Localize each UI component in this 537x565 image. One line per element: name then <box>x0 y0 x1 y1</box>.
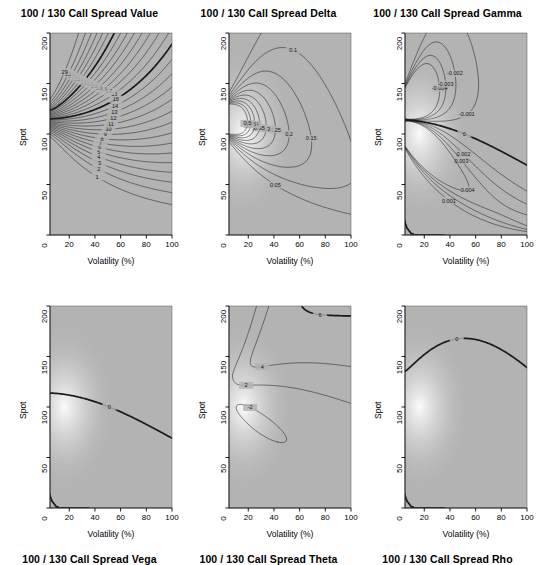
y-tick-label: 150 <box>40 83 49 105</box>
x-tick-label: 40 <box>84 513 106 522</box>
contour-label: -0.002 <box>447 70 463 76</box>
contour-label: 0 <box>455 336 458 342</box>
y-tick-label: 150 <box>219 356 228 378</box>
contour-label: 6 <box>319 312 322 318</box>
x-tick-label: 40 <box>263 240 285 249</box>
x-tick-label: 80 <box>135 240 157 249</box>
x-tick-label: 80 <box>314 240 336 249</box>
x-tick-label: 60 <box>289 240 311 249</box>
x-axis-label: Volatility (%) <box>229 529 351 539</box>
y-tick-label: 100 <box>395 134 404 156</box>
contour-label: 0.2 <box>285 131 293 137</box>
contour-label: 0.002 <box>457 151 471 157</box>
y-axis-label: Spot <box>197 129 207 147</box>
x-tick-label: 60 <box>110 513 132 522</box>
contour-label: 14 <box>112 103 118 109</box>
y-tick-label: 100 <box>40 407 49 429</box>
contour-label: 4 <box>261 364 264 370</box>
x-tick-label: 40 <box>439 513 461 522</box>
y-tick-label: 0 <box>40 508 49 530</box>
x-tick-label: 20 <box>58 513 80 522</box>
y-tick-label: 0 <box>395 508 404 530</box>
y-tick-label: 100 <box>40 134 49 156</box>
contour-label: 0.004 <box>461 187 475 193</box>
x-axis-label: Volatility (%) <box>229 256 351 266</box>
contour-plot-rho: 0 <box>358 273 537 546</box>
x-tick-label: 40 <box>439 240 461 249</box>
x-tick-label: 80 <box>490 240 512 249</box>
y-tick-label: 100 <box>219 134 228 156</box>
y-tick-label: 150 <box>395 356 404 378</box>
y-tick-label: 150 <box>395 83 404 105</box>
contour-label: 12 <box>110 115 116 121</box>
panel-gamma: 100 / 130 Call Spread Gamma-0.004-0.003-… <box>358 0 537 273</box>
y-tick-label: 200 <box>40 33 49 55</box>
x-tick-label: 20 <box>413 513 435 522</box>
y-tick-label: 50 <box>40 184 49 206</box>
x-tick-label: 60 <box>465 240 487 249</box>
panel-title-theta: 100 / 130 Call Spread Theta <box>179 553 358 565</box>
y-tick-label: 50 <box>219 184 228 206</box>
x-axis-label: Volatility (%) <box>50 529 172 539</box>
contour-label: 1 <box>96 174 99 180</box>
y-tick-label: 0 <box>40 235 49 257</box>
y-tick-label: 0 <box>219 508 228 530</box>
contour-label: -0.001 <box>459 111 475 117</box>
y-tick-label: 50 <box>40 457 49 479</box>
y-tick-label: 200 <box>219 306 228 328</box>
x-tick-label: 60 <box>465 513 487 522</box>
y-tick-label: 200 <box>395 33 404 55</box>
x-tick-label: 20 <box>413 240 435 249</box>
contour-label: 2 <box>245 382 248 388</box>
contour-label: 3 <box>98 160 101 166</box>
contour-label: -2 <box>248 404 253 410</box>
panel-value: 100 / 130 Call Spread Value1234567891011… <box>0 0 179 273</box>
y-tick-label: 0 <box>219 235 228 257</box>
panel-delta: 100 / 130 Call Spread Delta0.050.10.150.… <box>179 0 358 273</box>
y-tick-label: 150 <box>219 83 228 105</box>
x-axis-label: Volatility (%) <box>50 256 172 266</box>
y-tick-label: 150 <box>40 356 49 378</box>
x-tick-label: 80 <box>490 513 512 522</box>
contour-label: 0.05 <box>270 182 281 188</box>
panel-vega: 100 / 130 Call Spread Vega00501001502002… <box>0 273 179 546</box>
y-axis-label: Spot <box>373 129 383 147</box>
x-tick-label: 60 <box>110 240 132 249</box>
y-axis-label: Spot <box>373 402 383 420</box>
x-tick-label: 20 <box>237 513 259 522</box>
contour-plot-gamma: -0.004-0.003-0.002-0.00100.0010.0020.003… <box>358 0 537 273</box>
contour-label: 29 <box>62 69 68 75</box>
y-tick-label: 50 <box>395 457 404 479</box>
x-tick-label: 100 <box>516 513 537 522</box>
y-tick-label: 50 <box>395 184 404 206</box>
panel-title-vega: 100 / 130 Call Spread Vega <box>0 553 179 565</box>
contour-label: 2 <box>97 166 100 172</box>
x-tick-label: 100 <box>516 240 537 249</box>
y-axis-label: Spot <box>18 129 28 147</box>
x-tick-label: 40 <box>263 513 285 522</box>
contour-label: 0 <box>108 404 111 410</box>
y-tick-label: 200 <box>219 33 228 55</box>
y-tick-label: 50 <box>219 457 228 479</box>
contour-label: 13 <box>111 109 117 115</box>
y-axis-label: Spot <box>197 402 207 420</box>
contour-label: 0.5 <box>244 120 252 126</box>
x-tick-label: 20 <box>237 240 259 249</box>
contour-label: -0.003 <box>438 81 454 87</box>
y-tick-label: 0 <box>395 235 404 257</box>
x-tick-label: 80 <box>314 513 336 522</box>
x-tick-label: 20 <box>58 240 80 249</box>
contour-label: 0.1 <box>289 47 297 53</box>
contour-label: 0 <box>463 131 466 137</box>
x-tick-label: 40 <box>84 240 106 249</box>
y-tick-label: 200 <box>395 306 404 328</box>
x-axis-label: Volatility (%) <box>405 529 527 539</box>
panel-theta: 100 / 130 Call Spread Theta-224605010015… <box>179 273 358 546</box>
x-axis-label: Volatility (%) <box>405 256 527 266</box>
x-tick-label: 80 <box>135 513 157 522</box>
y-axis-label: Spot <box>18 402 28 420</box>
contour-label: 0.15 <box>306 135 317 141</box>
y-tick-label: 100 <box>395 407 404 429</box>
y-tick-label: 100 <box>219 407 228 429</box>
